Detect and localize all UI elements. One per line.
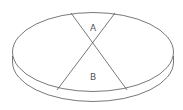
region-label-b: B: [90, 72, 96, 82]
disc-diagram: A B: [0, 0, 183, 110]
region-label-a: A: [90, 23, 97, 33]
